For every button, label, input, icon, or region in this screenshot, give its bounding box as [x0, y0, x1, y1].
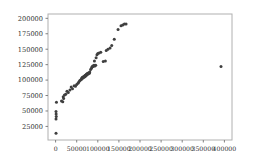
y-tick-label: 100000 — [18, 76, 43, 84]
x-tick-label: 50000 — [67, 145, 87, 152]
y-tick-label: 50000 — [22, 107, 43, 115]
y-tick-label: 125000 — [18, 61, 43, 69]
scatter-point — [55, 110, 58, 113]
scatter-point — [99, 51, 102, 54]
scatter-point — [125, 22, 128, 25]
scatter-point — [71, 87, 74, 90]
scatter-point — [110, 44, 113, 47]
scatter-point — [220, 65, 223, 68]
scatter-point — [67, 91, 70, 94]
x-tick-label: 400000 — [213, 145, 237, 152]
scatter-point — [55, 132, 58, 135]
scatter-point — [95, 56, 98, 59]
scatter-point — [62, 97, 65, 100]
scatter-point — [61, 100, 64, 103]
y-tick-label: 75000 — [22, 92, 43, 100]
scatter-point — [64, 93, 67, 96]
y-tick-label: 25000 — [22, 123, 43, 131]
scatter-plot-figure: 0500001000001500002000002500003000003500… — [0, 0, 258, 168]
scatter-point — [94, 64, 97, 67]
scatter-point — [109, 46, 112, 49]
axes-background — [48, 14, 232, 140]
axes-area: 0500001000001500002000002500003000003500… — [18, 14, 236, 152]
x-tick-label: 0 — [54, 145, 58, 152]
scatter-point — [113, 38, 116, 41]
y-tick-label: 200000 — [18, 15, 43, 23]
scatter-point — [93, 59, 96, 62]
scatter-point — [104, 59, 107, 62]
scatter-point — [117, 28, 120, 31]
y-tick-label: 150000 — [18, 46, 43, 54]
y-tick-label: 175000 — [18, 30, 43, 38]
scatter-plot-canvas: 0500001000001500002000002500003000003500… — [0, 0, 258, 168]
scatter-point — [68, 88, 71, 91]
scatter-point — [55, 101, 58, 104]
